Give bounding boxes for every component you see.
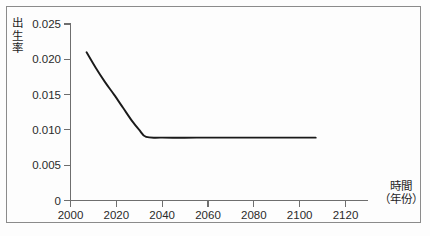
y-tick-group: 00.0050.0100.0150.0200.025	[32, 18, 70, 207]
y-tick-label: 0.025	[32, 18, 61, 30]
x-tick-group: 2000202020402060208021002120	[58, 201, 359, 222]
x-axis: 2000202020402060208021002120	[58, 201, 368, 222]
plot-area: 00.0050.0100.0150.0200.025 2000202020402…	[0, 0, 430, 236]
y-tick-label: 0.015	[32, 89, 61, 101]
x-tick-label: 2100	[287, 209, 313, 221]
x-tick-label: 2020	[104, 209, 130, 221]
x-tick-label: 2120	[333, 209, 359, 221]
data-series-group	[87, 52, 316, 138]
x-tick-label: 2000	[58, 209, 84, 221]
x-tick-label: 2060	[195, 209, 221, 221]
y-tick-label: 0.005	[32, 159, 61, 171]
x-tick-label: 2080	[241, 209, 267, 221]
y-tick-label: 0.020	[32, 53, 61, 65]
y-tick-label: 0	[55, 195, 61, 207]
y-axis: 00.0050.0100.0150.0200.025	[32, 18, 70, 207]
chart-figure: 出 生 率 時間 （年份） 00.0050.0100.0150.0200.025…	[0, 0, 430, 236]
y-tick-label: 0.010	[32, 124, 61, 136]
data-line	[87, 52, 316, 138]
x-tick-label: 2040	[149, 209, 175, 221]
